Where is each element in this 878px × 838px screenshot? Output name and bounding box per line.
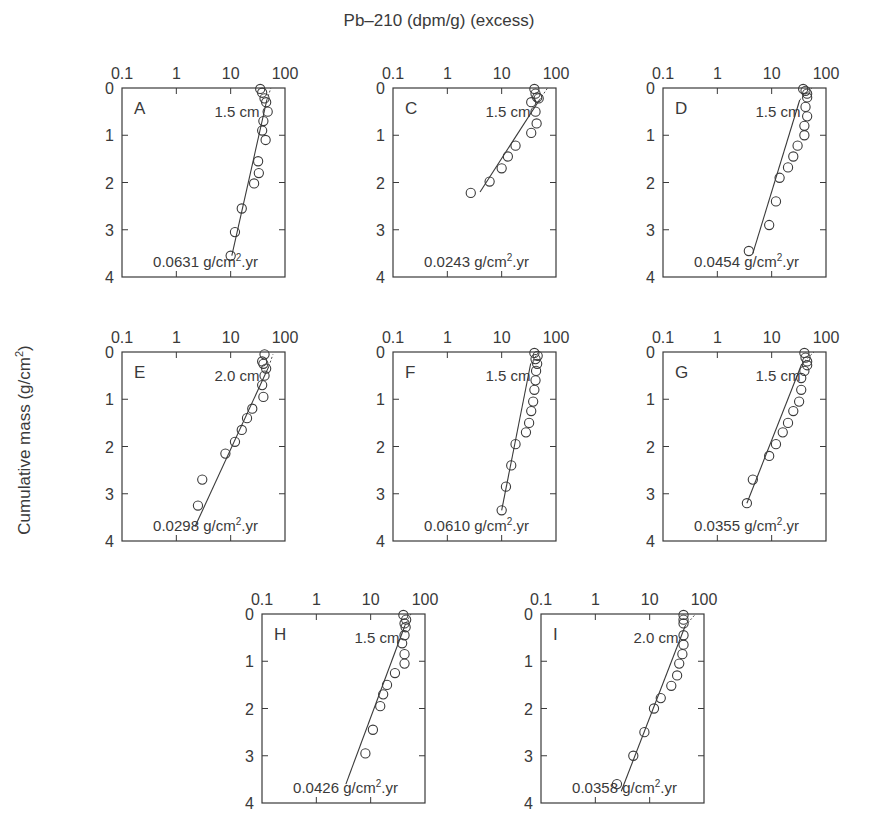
y-tick-label: 3 (105, 222, 114, 239)
data-point (525, 418, 534, 427)
x-tick-label: 100 (543, 329, 570, 346)
y-tick-label: 4 (245, 795, 254, 812)
data-point (675, 659, 684, 668)
data-point (400, 659, 409, 668)
plot-frame (393, 352, 556, 541)
y-tick-label: 2 (646, 439, 655, 456)
x-tick-label: 0.1 (382, 65, 404, 82)
y-tick-label: 3 (376, 486, 385, 503)
accumulation-rate-label: 0.0243 g/cm2.yr (424, 252, 529, 270)
y-tick-label: 1 (646, 391, 655, 408)
data-point (527, 128, 536, 137)
x-tick-label: 100 (272, 329, 299, 346)
panel-a: 0.111010001234A1.5 cm0.0631 g/cm2.yr (105, 65, 298, 286)
x-tick-label: 1 (312, 591, 321, 608)
data-point (771, 197, 780, 206)
data-point (679, 640, 688, 649)
y-tick-label: 2 (105, 439, 114, 456)
data-point (400, 650, 409, 659)
accumulation-rate-label: 0.0355 g/cm2.yr (694, 516, 799, 534)
data-point (390, 668, 399, 677)
y-tick-label: 4 (646, 533, 655, 550)
data-point (532, 119, 541, 128)
data-point (771, 440, 780, 449)
panel-label: G (675, 363, 688, 382)
fit-line-extension (269, 354, 273, 366)
y-tick-label: 0 (646, 344, 655, 361)
y-tick-label: 4 (524, 795, 533, 812)
y-tick-label: 3 (646, 222, 655, 239)
x-tick-label: 1 (713, 329, 722, 346)
panel-g: 0.111010001234G1.5 cm0.0355 g/cm2.yr (646, 329, 839, 550)
y-tick-label: 1 (105, 391, 114, 408)
y-tick-label: 0 (245, 606, 254, 623)
data-point (230, 437, 239, 446)
x-tick-label: 10 (641, 591, 659, 608)
data-point (230, 228, 239, 237)
data-point (259, 392, 268, 401)
data-point (261, 135, 270, 144)
panel-d: 0.111010001234D1.5 cm0.0454 g/cm2.yr (646, 65, 839, 286)
y-tick-label: 2 (376, 175, 385, 192)
panel-grid: 0.111010001234A1.5 cm0.0631 g/cm2.yr0.11… (105, 65, 839, 812)
data-point (793, 141, 802, 150)
data-point (237, 425, 246, 434)
panel-h: 0.111010001234H1.5 cm0.0426 g/cm2.yr (245, 591, 438, 812)
x-tick-label: 100 (813, 65, 840, 82)
data-point (382, 680, 391, 689)
mixing-depth-label: 1.5 cm (485, 367, 530, 384)
data-point (803, 112, 812, 121)
y-tick-label: 1 (524, 653, 533, 670)
y-tick-label: 2 (524, 701, 533, 718)
y-tick-label: 0 (376, 80, 385, 97)
mixing-depth-label: 2.0 cm (633, 629, 678, 646)
x-tick-label: 0.1 (652, 329, 674, 346)
plot-frame (393, 88, 556, 277)
fit-line (747, 364, 802, 503)
panel-label: D (675, 99, 687, 118)
panel-label: A (134, 99, 146, 118)
accumulation-rate-label: 0.0631 g/cm2.yr (153, 252, 258, 270)
y-tick-label: 2 (245, 701, 254, 718)
y-tick-label: 3 (105, 486, 114, 503)
panel-label: F (405, 363, 415, 382)
mixing-depth-label: 1.5 cm (354, 629, 399, 646)
panel-f: 0.111010001234F1.5 cm0.0610 g/cm2.yr (376, 329, 569, 550)
y-tick-label: 4 (105, 269, 114, 286)
data-point (679, 631, 688, 640)
y-tick-label: 1 (245, 653, 254, 670)
y-tick-label: 1 (376, 127, 385, 144)
y-tick-label: 4 (376, 269, 385, 286)
data-point (800, 121, 809, 130)
data-point (797, 385, 806, 394)
mixing-depth-label: 1.5 cm (755, 367, 800, 384)
x-tick-label: 0.1 (111, 65, 133, 82)
data-point (258, 126, 267, 135)
x-tick-label: 10 (763, 329, 781, 346)
y-tick-label: 4 (646, 269, 655, 286)
x-tick-label: 100 (813, 329, 840, 346)
x-tick-label: 0.1 (530, 591, 552, 608)
y-tick-label: 3 (376, 222, 385, 239)
y-tick-label: 2 (376, 439, 385, 456)
data-point (667, 681, 676, 690)
data-point (379, 690, 388, 699)
y-tick-label: 0 (376, 344, 385, 361)
data-point (765, 220, 774, 229)
data-point (497, 164, 506, 173)
data-point (198, 475, 207, 484)
panel-label: H (274, 625, 286, 644)
x-tick-label: 1 (172, 65, 181, 82)
x-tick-label: 10 (763, 65, 781, 82)
x-tick-label: 100 (543, 65, 570, 82)
x-tick-label: 0.1 (251, 591, 273, 608)
accumulation-rate-label: 0.0454 g/cm2.yr (694, 252, 799, 270)
figure-canvas: Pb–210 (dpm/g) (excess) Cumulative mass … (0, 0, 878, 838)
x-tick-label: 1 (591, 591, 600, 608)
data-point (800, 131, 809, 140)
x-tick-label: 10 (362, 591, 380, 608)
data-point (193, 501, 202, 510)
panel-c: 0.111010001234C1.5 cm0.0243 g/cm2.yr (376, 65, 569, 286)
svg-text:Cumulative mass (g/cm2): Cumulative mass (g/cm2) (13, 345, 34, 534)
x-tick-label: 10 (493, 65, 511, 82)
